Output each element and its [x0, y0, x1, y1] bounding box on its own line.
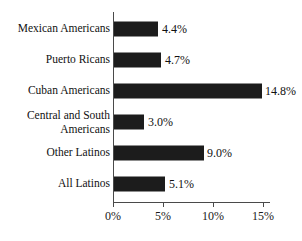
x-tick-label-2: 10%: [202, 209, 224, 224]
bar-row: Central and South Americans 3.0%: [0, 107, 302, 137]
x-tick-0: [113, 202, 114, 207]
category-label: Cuban Americans: [5, 84, 110, 98]
x-tick-2: [213, 202, 214, 207]
bar[interactable]: [114, 22, 158, 37]
value-label: 14.8%: [265, 84, 296, 99]
bar[interactable]: [114, 84, 262, 99]
bar[interactable]: [114, 115, 144, 130]
bar[interactable]: [114, 177, 165, 192]
category-label: Other Latinos: [5, 146, 110, 160]
x-axis-line: [113, 202, 270, 203]
value-label: 5.1%: [169, 177, 194, 192]
bar-row: Mexican Americans 4.4%: [0, 14, 302, 44]
x-tick-1: [163, 202, 164, 207]
bar-row: Cuban Americans 14.8%: [0, 76, 302, 106]
x-tick-label-0: 0%: [105, 209, 121, 224]
bar-chart: 0% 5% 10% 15% Mexican Americans 4.4% Pue…: [0, 0, 302, 241]
value-label: 4.4%: [162, 22, 187, 37]
category-label: All Latinos: [5, 177, 110, 191]
x-tick-label-1: 5%: [155, 209, 171, 224]
category-label: Central and South Americans: [5, 109, 110, 136]
bar-row: Puerto Ricans 4.7%: [0, 45, 302, 75]
category-label: Mexican Americans: [5, 22, 110, 36]
bar[interactable]: [114, 53, 161, 68]
value-label: 3.0%: [148, 115, 173, 130]
chart-page: 0% 5% 10% 15% Mexican Americans 4.4% Pue…: [0, 0, 302, 241]
value-label: 4.7%: [165, 53, 190, 68]
category-label: Puerto Ricans: [5, 53, 110, 67]
value-label: 9.0%: [207, 146, 232, 161]
bar[interactable]: [114, 146, 204, 161]
bar-row: All Latinos 5.1%: [0, 169, 302, 199]
x-tick-3: [263, 202, 264, 207]
x-tick-label-3: 15%: [252, 209, 274, 224]
bar-row: Other Latinos 9.0%: [0, 138, 302, 168]
